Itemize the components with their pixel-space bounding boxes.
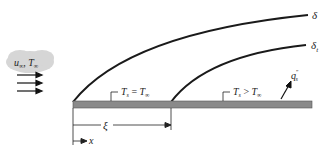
- x-axis-arrow: [73, 139, 87, 144]
- x-label: x: [88, 135, 94, 146]
- xi-label: ξ: [103, 119, 108, 132]
- heat-flux-label: q″s: [291, 69, 299, 82]
- heated-condition-label: Ts > T∞: [233, 86, 262, 98]
- unheated-condition-label: Ts = T∞: [121, 86, 150, 98]
- heated-leader-line: [223, 92, 230, 101]
- unheated-leader-line: [111, 92, 118, 101]
- diagram-canvas: u∞, T∞ δ δt Ts = T∞ Ts > T∞ q″s ξ: [0, 0, 326, 155]
- flow-arrows: [17, 73, 42, 94]
- flat-plate: [73, 101, 312, 108]
- heat-flux-arrow: [281, 81, 291, 99]
- delta-t-label: δt: [311, 39, 319, 54]
- delta-label: δ: [312, 9, 318, 21]
- velocity-boundary-layer-curve: [73, 15, 308, 102]
- unheated-length-dimension: [73, 108, 171, 145]
